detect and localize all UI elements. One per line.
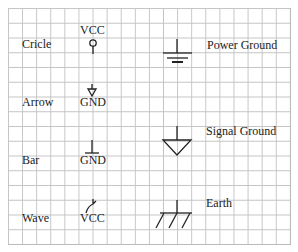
signal-ground-icon <box>163 126 191 155</box>
wave-power-icon <box>86 199 96 213</box>
power-ground-icon <box>163 39 192 62</box>
bar-ground-icon <box>85 140 99 153</box>
circle-power-icon <box>90 40 96 54</box>
arrow-ground-icon <box>88 84 96 96</box>
earth-ground-icon <box>156 200 192 228</box>
